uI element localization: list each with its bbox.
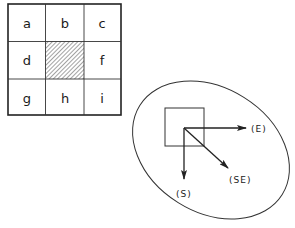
boundary-ellipse (107, 53, 295, 228)
cell-label-a: a (23, 16, 31, 31)
neighborhood-grid: a b c d f g h i (8, 4, 121, 115)
cell-label-h: h (61, 91, 69, 106)
label-south: (S) (176, 189, 192, 199)
direction-diagram: (E) (SE) (S) (107, 53, 295, 228)
label-east: (E) (251, 124, 267, 134)
diagram-canvas: a b c d f g h i (E) (SE) (S) (0, 0, 295, 228)
cell-label-d: d (23, 53, 31, 68)
cell-label-f: f (100, 53, 105, 68)
cell-label-c: c (98, 16, 105, 31)
cell-label-b: b (61, 16, 69, 31)
cell-label-i: i (100, 91, 104, 106)
label-southeast: (SE) (229, 175, 251, 185)
cell-label-g: g (23, 91, 31, 106)
grid-center-cell-shaded (46, 42, 84, 80)
arrow-southeast (184, 128, 228, 168)
